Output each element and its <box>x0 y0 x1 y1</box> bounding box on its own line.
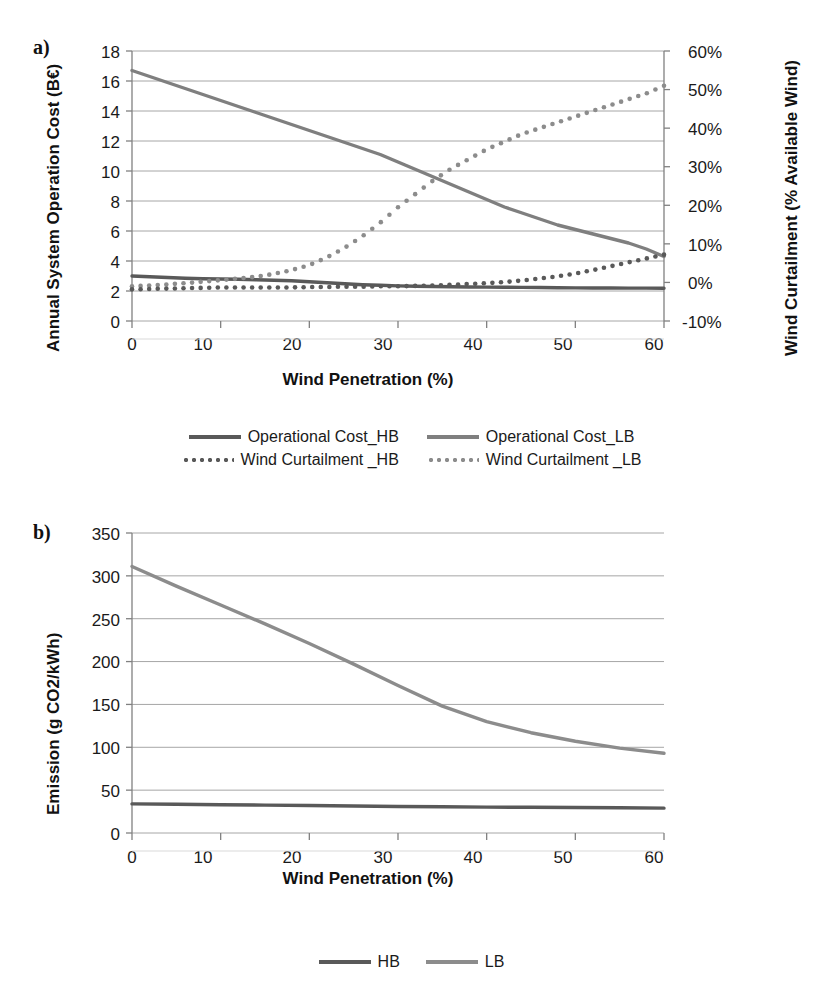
legend-item-operational-cost-lb[interactable]: Operational Cost_LB <box>427 428 635 446</box>
legend-item-label: Operational Cost_LB <box>486 428 635 446</box>
solid-line-icon <box>319 956 371 968</box>
legend-item-label: Wind Curtailment _HB <box>241 451 399 469</box>
figure-root: a) Annual System Operation Cost (B€) Win… <box>0 0 823 1006</box>
legend-item-lb[interactable]: LB <box>426 953 505 971</box>
solid-line-icon <box>189 431 241 443</box>
dotted-line-icon <box>427 454 479 466</box>
solid-line-icon <box>427 431 479 443</box>
legend-item-operational-cost-hb[interactable]: Operational Cost_HB <box>189 428 399 446</box>
chart-panel-b: b) Emission (g CO2/kWh) Wind Penetration… <box>0 505 823 1006</box>
chart-panel-a: a) Annual System Operation Cost (B€) Win… <box>0 0 823 400</box>
legend-row: Operational Cost_HBOperational Cost_LB <box>0 428 823 446</box>
panel-a-legend: Operational Cost_HBOperational Cost_LBWi… <box>0 423 823 474</box>
legend-item-wind-curtailment-lb[interactable]: Wind Curtailment _LB <box>427 451 642 469</box>
panel-b-legend: HBLB <box>0 948 823 976</box>
panel-b-plot <box>0 505 823 925</box>
legend-item-hb[interactable]: HB <box>319 953 400 971</box>
legend-item-label: HB <box>378 953 400 971</box>
dotted-line-icon <box>182 454 234 466</box>
legend-item-label: Operational Cost_HB <box>248 428 399 446</box>
panel-a-plot <box>0 0 823 400</box>
legend-item-wind-curtailment-hb[interactable]: Wind Curtailment _HB <box>182 451 399 469</box>
legend-item-label: LB <box>485 953 505 971</box>
legend-item-label: Wind Curtailment _LB <box>486 451 642 469</box>
legend-row: Wind Curtailment _HBWind Curtailment _LB <box>0 451 823 469</box>
legend-row: HBLB <box>0 953 823 971</box>
solid-line-icon <box>426 956 478 968</box>
